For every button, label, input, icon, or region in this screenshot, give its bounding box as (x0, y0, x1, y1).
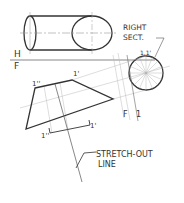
drawing-canvas: H F RIGHT SECT. 1,1' F 1 1'' 1' (0, 0, 184, 203)
label-f: F (14, 61, 19, 71)
section-point-label: 1,1' (140, 49, 152, 56)
right-sect-leader (155, 38, 164, 57)
right-sect-label-2: SECT. (123, 33, 144, 42)
point-1pp-bottom: 1'' (41, 132, 49, 140)
stretch-out-leader (76, 152, 96, 168)
stretch-out-label-2: LINE (98, 160, 116, 169)
fold-label-f: F (123, 110, 128, 119)
width-bracket (49, 120, 90, 133)
point-1p-top: 1' (73, 70, 79, 78)
point-1pp-top: 1'' (32, 80, 40, 88)
right-sect-label-1: RIGHT (123, 23, 147, 32)
label-h: H (14, 49, 21, 59)
projection-lines (20, 53, 170, 133)
stretch-out-line (55, 84, 82, 182)
fold-label-1: 1 (136, 110, 141, 119)
cylinder-top-view (20, 12, 117, 54)
point-1p-bottom: 1' (90, 122, 96, 130)
right-section-circle (129, 56, 163, 90)
stretch-out-label-1: STRETCH-OUT (96, 150, 153, 159)
